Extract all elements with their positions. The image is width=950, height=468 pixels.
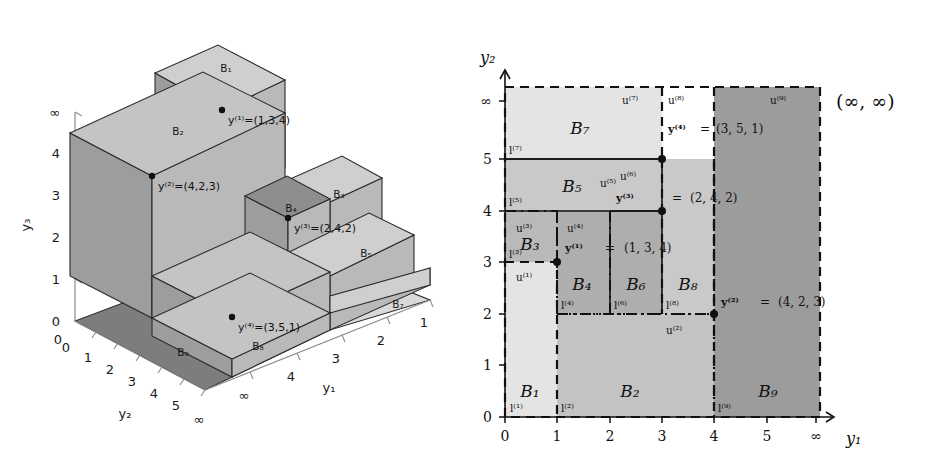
lower-label-B2: l⁽²⁾	[561, 402, 574, 414]
y-tick-5: 5	[483, 151, 492, 167]
y2-axis-label: y₂	[119, 406, 132, 421]
point-name-y4: y⁽⁴⁾	[667, 123, 686, 136]
x-tick-3: 3	[658, 428, 667, 444]
point-value-y2: (4, 2, 3)	[778, 295, 826, 309]
upper-label-B3: u⁽³⁾	[516, 222, 533, 234]
block-label-B9: B₉	[177, 346, 188, 358]
y1-tick-4: 4	[287, 369, 295, 384]
right-panel-2d-plot: .bx{stroke:none} .edash{fill:none;stroke…	[450, 0, 950, 468]
y3-tick-2: 2	[52, 230, 60, 245]
block-label-B1: B₁	[220, 62, 231, 74]
box-label-B8: B₈	[677, 274, 697, 294]
point-label-y3: y⁽³⁾=(2,4,2)	[294, 222, 356, 235]
y-tick-1: 1	[483, 357, 492, 373]
2d-plot-svg: .bx{stroke:none} .edash{fill:none;stroke…	[450, 0, 950, 468]
box-fill-B5	[505, 159, 662, 211]
box-label-B9: B₉	[757, 381, 777, 401]
y1-tick-2: 2	[377, 333, 385, 348]
point-eq-y2: =	[760, 295, 770, 309]
y3-tick-0: 0	[52, 314, 60, 329]
point-value-y1: (1, 3, 4)	[624, 241, 672, 255]
point-label-y1: y⁽¹⁾=(1,3,4)	[228, 114, 290, 127]
upper-label-B5: u⁽⁵⁾	[600, 177, 617, 189]
y-tick-inf: ∞	[480, 93, 492, 109]
point-label-y2: y⁽²⁾=(4,2,3)	[158, 180, 220, 193]
box-label-B2: B₂	[619, 381, 639, 401]
y2-tick-inf: ∞	[194, 412, 205, 427]
x-axis-label: y₁	[845, 429, 861, 448]
y-tick-0: 0	[483, 409, 492, 425]
upper-label-B8: u⁽⁸⁾	[668, 94, 685, 106]
lower-label-B7: l⁽⁷⁾	[509, 144, 522, 156]
point-name-y3: y⁽³⁾	[615, 192, 634, 205]
y1-axis-label: y₁	[323, 380, 336, 395]
point-name-y1: y⁽¹⁾	[564, 242, 583, 255]
axis-y-2d: 0 1 2 3 4 5 ∞ y₂	[479, 48, 510, 425]
lower-label-B9: l⁽⁹⁾	[718, 402, 731, 414]
y2-tick-2: 2	[106, 362, 114, 377]
x-tick-1: 1	[553, 428, 562, 444]
x-tick-4: 4	[710, 428, 719, 444]
point-eq-y1: =	[605, 241, 615, 255]
left-panel-3d-plot: .top{fill:#cfcfcf;stroke:#2a2a2a;stroke-…	[0, 0, 450, 468]
lower-label-B8: l⁽⁸⁾	[666, 299, 679, 311]
y3-tick-inf: ∞	[49, 105, 60, 120]
y-tick-2: 2	[483, 306, 492, 322]
upper-label-B6: u⁽⁶⁾	[620, 170, 637, 182]
y1-tick-1: 1	[420, 315, 428, 330]
x-tick-0: 0	[501, 428, 510, 444]
y1-tick-inf: ∞	[239, 388, 250, 403]
box-label-B1: B₁	[519, 381, 539, 401]
box-label-B7: B₇	[569, 118, 589, 138]
lower-label-B1: l⁽¹⁾	[510, 402, 523, 414]
lower-label-B5: l⁽⁵⁾	[509, 196, 522, 208]
lower-label-B3: l⁽³⁾	[509, 248, 522, 260]
box-label-B4: B₄	[571, 274, 591, 294]
box-fill-B2	[557, 314, 714, 417]
y3-axis-label: y₃	[18, 219, 33, 232]
y2-tick-3: 3	[128, 374, 136, 389]
figure-container: .top{fill:#cfcfcf;stroke:#2a2a2a;stroke-…	[0, 0, 950, 468]
lower-label-B4: l⁽⁴⁾	[561, 299, 574, 311]
box-label-B5: B₅	[561, 176, 581, 196]
corner-infinity-label: (∞, ∞)	[836, 90, 895, 112]
y-tick-3: 3	[483, 254, 492, 270]
block-label-B8: B₈	[252, 340, 263, 352]
y1-origin-zero: 0	[54, 332, 62, 347]
box-fill-B9	[714, 87, 820, 417]
box-label-B6: B₆	[625, 274, 645, 294]
y2-tick-4: 4	[150, 386, 158, 401]
point-value-y3: (2, 4, 2)	[690, 191, 738, 205]
y2-tick-1: 1	[84, 350, 92, 365]
block-label-B4: B₄	[285, 202, 296, 214]
point-eq-y4: =	[700, 122, 710, 136]
upper-label-B2: u⁽²⁾	[666, 324, 683, 336]
axis-x-2d: 0 1 2 3 4 5 ∞ y₁	[501, 412, 862, 448]
y-tick-4: 4	[483, 203, 492, 219]
y3-tick-3: 3	[52, 188, 60, 203]
y2-tick-5: 5	[172, 398, 180, 413]
box-label-B3: B₃	[519, 234, 539, 254]
block-label-B2: B₂	[172, 125, 183, 137]
point-label-y4: y⁽⁴⁾=(3,5,1)	[238, 321, 300, 334]
upper-label-B9: u⁽⁹⁾	[770, 94, 787, 106]
block-B9: B₉	[177, 346, 188, 358]
y-axis-label: y₂	[479, 48, 495, 67]
y2-tick-0: 0	[62, 340, 70, 355]
point-name-y2: y⁽²⁾	[720, 296, 739, 309]
3d-plot-svg: .top{fill:#cfcfcf;stroke:#2a2a2a;stroke-…	[0, 0, 450, 468]
block-label-B5: B₅	[360, 247, 371, 259]
upper-label-B4: u⁽⁴⁾	[567, 222, 584, 234]
upper-label-B1: u⁽¹⁾	[516, 271, 533, 283]
y3-tick-4: 4	[52, 146, 60, 161]
point-eq-y3: =	[672, 191, 682, 205]
point-value-y4: (3, 5, 1)	[716, 122, 764, 136]
x-tick-inf: ∞	[810, 428, 822, 444]
block-label-B7: B₇	[392, 298, 403, 310]
block-label-B3: B₃	[333, 188, 344, 200]
y1-tick-3: 3	[332, 351, 340, 366]
y3-tick-1: 1	[52, 272, 60, 287]
x-tick-5: 5	[763, 428, 772, 444]
x-tick-2: 2	[606, 428, 615, 444]
lower-label-B6: l⁽⁶⁾	[614, 299, 627, 311]
